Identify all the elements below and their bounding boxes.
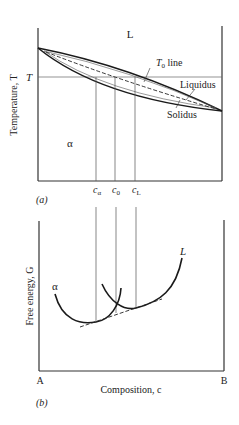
common-tangent-line [80, 299, 162, 327]
alpha-free-energy-curve [55, 288, 121, 323]
solidus-label: Solidus [167, 109, 197, 120]
panel-b: α L Free energy, G A B Composition, c (b… [24, 220, 228, 409]
c0-label: c0 [112, 184, 120, 197]
cL-label: cL [132, 184, 141, 197]
c0-sub: 0 [116, 189, 120, 197]
temperature-marker: T [26, 71, 33, 83]
liquidus-label: Liquidus [180, 79, 216, 90]
liquid-curve-label: L [179, 245, 186, 257]
composition-b-label: B [221, 375, 228, 386]
liquid-free-energy-curve [102, 258, 182, 309]
alpha-region-label: α [67, 137, 73, 149]
temperature-axis-label: Temperature, T [8, 74, 19, 135]
panel-a-tag: (a) [36, 194, 48, 206]
c-alpha-label: cα [93, 184, 101, 197]
liquid-region-label: L [127, 28, 134, 40]
t0-line-label: T0 line [156, 57, 183, 70]
panel-a: L α T Temperature, T T0 line Liquidus So… [8, 26, 222, 206]
alpha-curve-label: α [52, 280, 58, 292]
t0-label-rest: line [165, 57, 183, 68]
free-energy-axis-text: Free energy, G [24, 267, 35, 326]
phase-diagram-figure: L α T Temperature, T T0 line Liquidus So… [0, 0, 239, 425]
cL-sub: L [136, 189, 140, 197]
panel-b-tag: (b) [36, 397, 48, 409]
c-alpha-sub: α [97, 189, 101, 197]
free-energy-axis-label: Free energy, G [24, 267, 35, 326]
composition-axis-label: Composition, c [100, 384, 162, 395]
composition-a-label: A [36, 375, 44, 386]
